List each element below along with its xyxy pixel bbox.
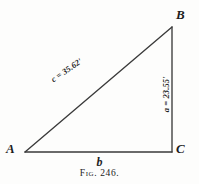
vertex-label-b: B (176, 8, 185, 21)
side-label-vertical: a = 23.55' (162, 76, 171, 112)
figure-caption: Fig. 246. (0, 168, 199, 178)
vertex-label-c: C (176, 142, 185, 155)
triangle-side-hypotenuse (25, 27, 172, 152)
figure-container: A B C c = 35.62' a = 23.55' b Fig. 246. (0, 0, 199, 184)
side-label-base: b (0, 156, 199, 168)
vertex-label-a: A (6, 142, 15, 155)
